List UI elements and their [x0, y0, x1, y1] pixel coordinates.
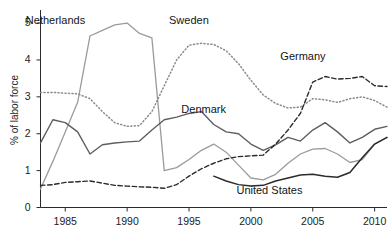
plot-area [0, 0, 391, 239]
series-label-germany: Germany [280, 50, 325, 62]
x-tick-label: 1990 [107, 215, 147, 227]
series-label-netherlands: Netherlands [26, 14, 85, 26]
series-line-denmark [41, 112, 388, 154]
series-label-united-states: United States [236, 184, 302, 196]
x-tick-label: 2000 [231, 215, 271, 227]
y-ticks [37, 23, 41, 207]
x-tick-label: 2010 [355, 215, 391, 227]
x-tick-label: 1985 [45, 215, 85, 227]
y-axis-title: % of labor force [9, 75, 20, 145]
series-label-denmark: Denmark [181, 103, 226, 115]
y-tick-label: 0 [17, 201, 31, 213]
x-tick-label: 2005 [293, 215, 333, 227]
series-label-sweden: Sweden [169, 14, 209, 26]
series-line-united-states [214, 137, 387, 186]
y-tick-label: 4 [17, 53, 31, 65]
y-tick-label: 1 [17, 164, 31, 176]
x-ticks [65, 208, 374, 212]
x-tick-label: 1995 [169, 215, 209, 227]
series-line-germany [41, 77, 388, 189]
line-chart: 012345198519901995200020052010Netherland… [0, 0, 391, 239]
